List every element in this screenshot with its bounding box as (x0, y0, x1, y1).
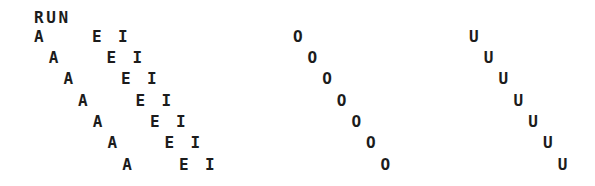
letter-u-2: U (484, 50, 494, 66)
letter-diagonal-canvas: RUN AAAAAAA EEEEEEE IIIIIII OOOOOOO UUUU… (0, 0, 595, 186)
letter-u-4: U (513, 93, 523, 109)
letter-u-5: U (528, 114, 538, 130)
letter-u-7: U (558, 157, 568, 173)
letter-u-3: U (499, 71, 509, 87)
diagonal-u-group: UUUUUUU (0, 0, 595, 186)
letter-u-6: U (543, 135, 553, 151)
letter-u-1: U (469, 29, 479, 45)
